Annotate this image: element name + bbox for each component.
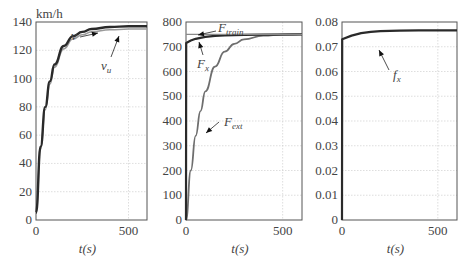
y-tick-label: 0 xyxy=(176,212,183,227)
x-axis-label: t(s) xyxy=(387,241,404,256)
y-tick-label: 0.05 xyxy=(315,88,338,103)
y-tick-label: 0 xyxy=(332,212,339,227)
y-tick-label: 200 xyxy=(163,163,183,178)
x-tick-label: 500 xyxy=(119,223,139,238)
arrow-head-icon xyxy=(198,31,204,36)
y-tick-label: 0 xyxy=(26,212,33,227)
y-tick-label: 80 xyxy=(19,99,32,114)
x-tick-label: 500 xyxy=(273,223,293,238)
x-tick-label: 0 xyxy=(339,223,346,238)
y-tick-label: 0.03 xyxy=(315,138,338,153)
label-f-x: Fx xyxy=(196,56,209,73)
y-tick-label: 0.07 xyxy=(315,39,338,54)
y-tick-label: 140 xyxy=(13,14,33,29)
y-tick-label: 40 xyxy=(19,155,32,170)
x-tick-label: 0 xyxy=(33,223,40,238)
label-v: v xyxy=(71,28,77,43)
y-tick-label: 300 xyxy=(163,138,183,153)
chart-3: 00.010.020.030.040.050.060.070.080500t(s… xyxy=(315,14,457,256)
y-tick-label: 800 xyxy=(163,14,183,29)
y-tick-label: 100 xyxy=(13,71,33,86)
y-tick-label: 0.04 xyxy=(315,113,338,128)
x-tick-label: 500 xyxy=(428,223,448,238)
y-tick-label: 400 xyxy=(163,113,183,128)
y-tick-label: 500 xyxy=(163,88,183,103)
arrow-head-icon xyxy=(198,42,203,48)
x-axis-label: t(s) xyxy=(231,241,248,256)
y-tick-label: 0.02 xyxy=(315,163,338,178)
x-axis-label: t(s) xyxy=(79,241,96,256)
arrow-head-icon xyxy=(114,36,119,43)
x-tick-label: 0 xyxy=(183,223,190,238)
label-f-ext: Fext xyxy=(223,114,243,131)
y-tick-label: 600 xyxy=(163,64,183,79)
label-v-u: vu xyxy=(101,58,112,75)
chart-1: 0204060801001201400500t(s)km/hvvu xyxy=(13,6,148,256)
label-f-x: fx xyxy=(393,67,401,84)
y-tick-label: 0.01 xyxy=(315,187,338,202)
y-tick-label: 700 xyxy=(163,39,183,54)
series-v-u xyxy=(36,29,147,213)
y-tick-label: 20 xyxy=(19,184,32,199)
y-tick-label: 0.06 xyxy=(315,64,338,79)
y-tick-label: 0.08 xyxy=(315,14,338,29)
chart-2: 01002003004005006007008000500t(s)FtrainF… xyxy=(163,14,303,256)
arrow-head-icon xyxy=(92,32,98,37)
axes-frame xyxy=(36,22,147,220)
y-unit-label: km/h xyxy=(36,6,63,21)
series-f-x xyxy=(342,30,457,220)
y-tick-label: 100 xyxy=(163,187,183,202)
series-v xyxy=(36,26,147,213)
figure: 0204060801001201400500t(s)km/hvvu0100200… xyxy=(0,0,469,264)
label-f-train: Ftrain xyxy=(217,20,244,37)
y-tick-label: 60 xyxy=(19,127,32,142)
y-tick-label: 120 xyxy=(13,42,33,57)
